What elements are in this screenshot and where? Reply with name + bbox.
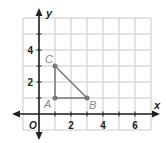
point-label-b: B <box>89 99 96 111</box>
x-tick-label: 6 <box>132 120 138 131</box>
y-axis-up-arrow-icon <box>36 8 43 16</box>
x-axis-label: x <box>153 99 161 111</box>
y-axis-down-arrow-icon <box>36 132 43 140</box>
labels: 24624OxyABC <box>27 7 161 131</box>
point-c <box>53 64 58 69</box>
y-axis-label: y <box>45 7 53 19</box>
y-tick-label: 4 <box>27 45 33 56</box>
y-tick-label: 2 <box>27 77 33 88</box>
origin-label: O <box>29 120 37 131</box>
x-axis-left-arrow-icon <box>12 111 20 118</box>
point-label-c: C <box>45 53 53 65</box>
x-tick-label: 2 <box>68 120 74 131</box>
point-a <box>53 96 58 101</box>
coordinate-plane: 24624OxyABC <box>0 0 166 143</box>
point-label-a: A <box>43 98 51 110</box>
x-axis-right-arrow-icon <box>152 111 160 118</box>
x-tick-label: 4 <box>100 120 106 131</box>
